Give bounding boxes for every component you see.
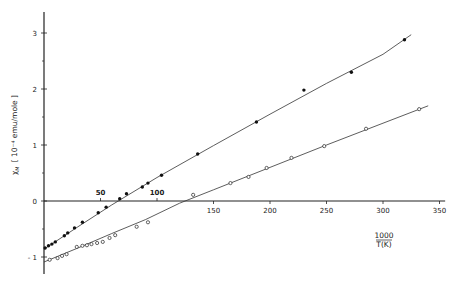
data-point-open [48,258,51,261]
x-axis-label-numerator: 1000 [374,231,393,240]
data-point-open [229,181,232,184]
data-point-filled [81,221,84,224]
data-point-filled [50,242,53,245]
y-axis-units: [ 10⁻⁴ emu/mole ] [10,95,19,162]
fit-line-filled [44,35,411,250]
data-markers [43,38,420,261]
y-tick-label: - 1 [28,254,37,262]
y-tick-label: 0 [33,198,37,206]
data-point-open [101,240,104,243]
x-tick-label: 50 [96,189,106,197]
data-point-filled [125,192,128,195]
data-point-filled [196,152,199,155]
data-point-filled [54,240,57,243]
data-point-open [85,244,88,247]
data-point-open [192,193,195,196]
data-point-filled [47,244,50,247]
data-point-open [56,257,59,260]
y-axis-label: χM[ 10⁻⁴ emu/mole ] [10,95,20,175]
chart: - 1012350100150200250300350 χM[ 10⁻⁴ emu… [0,0,455,284]
y-tick-label: 2 [33,86,37,94]
data-point-open [96,241,99,244]
data-point-filled [160,174,163,177]
data-point-filled [43,246,46,249]
data-point-open [364,127,367,130]
data-point-open [75,245,78,248]
x-tick-label: 200 [263,207,276,215]
data-point-filled [146,181,149,184]
data-point-open [135,225,138,228]
data-point-filled [73,226,76,229]
data-point-filled [104,205,107,208]
x-tick-label: 100 [150,189,165,197]
data-point-open [108,236,111,239]
x-axis-label-denominator: T(K) [375,240,391,249]
data-point-filled [302,88,305,91]
data-point-filled [255,120,258,123]
x-tick-label: 350 [433,207,446,215]
y-tick-label: 1 [33,142,37,150]
y-tick-label: 3 [33,30,37,38]
axis-labels: χM[ 10⁻⁴ emu/mole ] 1000 T(K) [10,95,394,249]
fit-lines [44,35,428,262]
data-point-filled [350,71,353,74]
data-point-open [90,243,93,246]
data-point-open [418,108,421,111]
data-point-filled [66,231,69,234]
data-point-open [323,145,326,148]
data-point-open [60,254,63,257]
y-axis-subscript: M [14,166,20,170]
data-point-filled [97,211,100,214]
data-point-filled [141,185,144,188]
data-point-open [65,253,68,256]
data-point-filled [403,38,406,41]
x-tick-label: 150 [207,207,220,215]
data-point-open [114,234,117,237]
x-tick-label: 250 [320,207,333,215]
data-point-open [81,244,84,247]
data-point-filled [118,197,121,200]
data-point-open [247,175,250,178]
x-tick-label: 300 [376,207,389,215]
data-point-open [265,166,268,169]
data-point-filled [63,234,66,237]
data-point-open [146,221,149,224]
fit-line-open [44,106,428,262]
data-point-open [290,156,293,159]
